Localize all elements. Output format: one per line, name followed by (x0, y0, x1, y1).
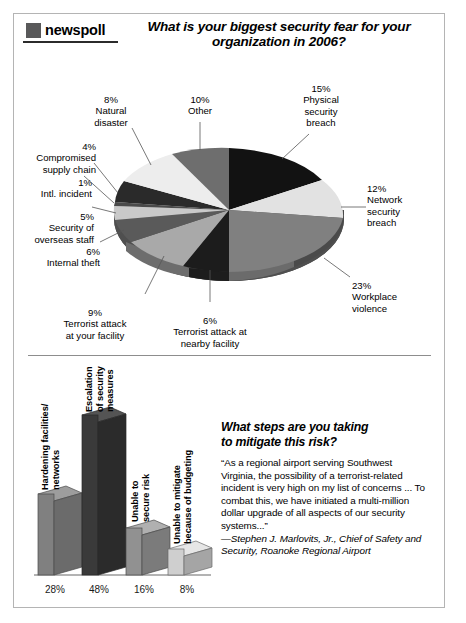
pie-label-security-overseas-staff: 5% Security of overseas staff (14, 200, 94, 245)
bar-unable-secure-risk (126, 520, 170, 575)
pie-label-name: Network security breach (367, 194, 402, 227)
pie-label-name: Natural disaster (94, 105, 128, 127)
bar-chart-section: Hardening facilities/ networks Escalatio… (16, 362, 221, 608)
pie-label-name: Internal theft (47, 257, 100, 268)
pie-label-pct: 15% (311, 83, 330, 94)
pie-label-physical-security-breach: 15% Physical security breach (282, 72, 360, 128)
pie-label-pct: 6% (203, 315, 217, 326)
pie-label-name: Security of overseas staff (34, 222, 94, 244)
bar-value-escalation-security: 48% (78, 584, 120, 595)
pie-chart-section: 15% Physical security breach 12% Network… (14, 62, 444, 354)
pie-label-name: Other (188, 105, 212, 116)
bottom-section: Hardening facilities/ networks Escalatio… (14, 362, 444, 608)
bar-label-unable-mitigate-budgeting: Unable to mitigate because of budgeting (172, 434, 193, 544)
pie-label-name: Terrorist attack at nearby facility (173, 326, 247, 348)
bar-label-escalation-security: Escalation of security measures (84, 348, 116, 412)
square-mark-icon (26, 23, 41, 38)
bar-label-unable-secure-risk: Unable to secure risk (130, 462, 151, 522)
pie-label-terrorist-nearby-facility: 6% Terrorist attack at nearby facility (154, 304, 266, 349)
pie-label-name: Intl. incident (41, 188, 92, 199)
quote-attribution: —Stephen J. Marlovits, Jr., Chief of Saf… (221, 533, 429, 558)
poster-frame: newspoll What is your biggest security f… (13, 13, 445, 608)
pie-label-name: Terrorist attack at your facility (64, 318, 127, 340)
logo-label: newspoll (45, 22, 105, 38)
pie-label-pct: 8% (104, 94, 118, 105)
pie-label-compromised-supply-chain: 4% Compromised supply chain (14, 130, 96, 175)
bar-unable-mitigate-budgeting (168, 541, 212, 575)
logo-underline (23, 41, 118, 43)
page-title: What is your biggest security fear for y… (129, 19, 429, 49)
pie-label-other: 10% Other (170, 83, 230, 117)
pie-label-terrorist-your-facility: 9% Terrorist attack at your facility (42, 296, 148, 341)
bar-value-unable-secure-risk: 16% (123, 584, 165, 595)
pie-label-name: Workplace violence (352, 291, 397, 313)
newspoll-logo: newspoll (26, 22, 105, 38)
pie-label-pct: 23% (352, 280, 371, 291)
bar-value-hardening-facilities: 28% (34, 584, 76, 595)
poster-header: newspoll What is your biggest security f… (14, 14, 444, 66)
pie-label-name: Physical security breach (303, 94, 339, 127)
quote-block: What steps are you taking to mitigate th… (221, 420, 429, 558)
pie-label-pct: 12% (367, 183, 386, 194)
pie-label-pct: 1% (78, 177, 92, 188)
pie-label-workplace-violence: 23% Workplace violence (352, 269, 440, 314)
pie-label-natural-disaster: 8% Natural disaster (80, 83, 142, 128)
bar-hardening-facilities (38, 486, 82, 575)
bar-value-unable-mitigate-budgeting: 8% (166, 584, 208, 595)
bar-label-hardening-facilities: Hardening facilities/ networks (40, 390, 61, 490)
quote-text: “As a regional airport serving Southwest… (221, 457, 429, 533)
quote-heading: What steps are you taking to mitigate th… (221, 420, 429, 450)
pie-label-pct: 5% (80, 211, 94, 222)
pie-label-pct: 4% (82, 141, 96, 152)
pie-label-pct: 10% (190, 94, 209, 105)
pie-label-name: Compromised supply chain (36, 152, 96, 174)
pie-slices (114, 148, 343, 272)
pie-label-network-security-breach: 12% Network security breach (367, 172, 441, 228)
pie-label-pct: 9% (88, 307, 102, 318)
pie-label-pct: 6% (86, 246, 100, 257)
bar-escalation-security (82, 407, 126, 575)
